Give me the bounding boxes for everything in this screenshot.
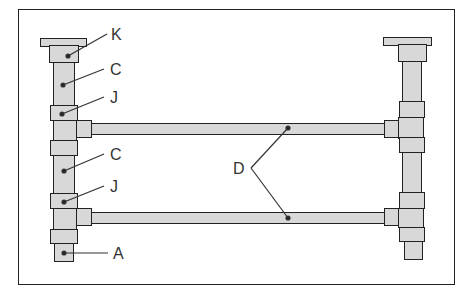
label-j-lower: J	[110, 179, 118, 195]
label-j-upper: J	[110, 90, 118, 106]
label-c-upper: C	[110, 62, 122, 78]
leader-lines	[0, 0, 467, 296]
label-a: A	[113, 246, 124, 262]
label-c-lower: C	[110, 147, 122, 163]
label-d: D	[233, 161, 245, 177]
label-k: K	[111, 27, 122, 43]
